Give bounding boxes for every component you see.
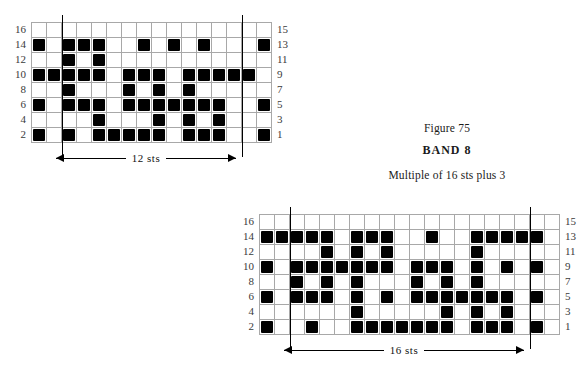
stitch-cell-empty	[515, 215, 530, 230]
repeat-count-label: 16 sts	[384, 344, 424, 356]
stitch-cell-filled	[122, 68, 137, 83]
stitch-cell-empty	[320, 305, 335, 320]
stitch-cell-filled	[350, 290, 365, 305]
stitch-cell-empty	[305, 215, 320, 230]
row-label-right: 1	[560, 319, 577, 334]
stitch-cell-empty	[107, 23, 122, 38]
stitch-cell-empty	[515, 305, 530, 320]
stitch-cell-empty	[455, 320, 470, 335]
row-label-right: 13	[272, 37, 299, 52]
chart-grid-row	[260, 215, 560, 230]
stitch-cell-empty	[47, 38, 62, 53]
stitch-cell-empty	[107, 68, 122, 83]
stitch-cell-empty	[455, 215, 470, 230]
stitch-cell-filled	[440, 305, 455, 320]
repeat-arrow-line-right	[166, 158, 236, 159]
stitch-cell-filled	[257, 128, 272, 143]
stitch-cell-empty	[395, 275, 410, 290]
stitch-cell-filled	[365, 320, 380, 335]
stitch-cell-empty	[122, 53, 137, 68]
stitch-cell-empty	[242, 113, 257, 128]
chart-upper: 16 14 12 10 8 6 4 2 15 13 11 9 7 5 3 1 1…	[4, 22, 299, 143]
stitch-multiple-note: Multiple of 16 sts plus 3	[332, 169, 562, 181]
repeat-end-line	[242, 15, 243, 157]
repeat-count-label: 12 sts	[126, 152, 166, 164]
row-label-left: 12	[4, 52, 31, 67]
stitch-cell-filled	[440, 290, 455, 305]
row-label-right: 3	[272, 112, 299, 127]
repeat-arrow-line-left	[284, 350, 384, 351]
stitch-cell-empty	[137, 23, 152, 38]
stitch-cell-empty	[530, 245, 545, 260]
stitch-cell-empty	[242, 128, 257, 143]
stitch-cell-filled	[47, 68, 62, 83]
stitch-cell-filled	[62, 98, 77, 113]
stitch-cell-empty	[395, 290, 410, 305]
row-label-right: 5	[272, 97, 299, 112]
stitch-cell-empty	[410, 245, 425, 260]
stitch-cell-filled	[305, 320, 320, 335]
repeat-arrow-line-left	[56, 158, 126, 159]
stitch-cell-filled	[425, 260, 440, 275]
chart-grid-row	[260, 275, 560, 290]
stitch-cell-filled	[530, 230, 545, 245]
stitch-cell-empty	[350, 215, 365, 230]
stitch-cell-filled	[122, 98, 137, 113]
chart-lower-body: 16 14 12 10 8 6 4 2 15 13 11 9 7 5 3 1	[232, 214, 577, 335]
row-label-right: 13	[560, 229, 577, 244]
stitch-cell-filled	[425, 290, 440, 305]
stitch-cell-filled	[197, 98, 212, 113]
repeat-arrow-line-right	[424, 350, 524, 351]
stitch-cell-empty	[212, 23, 227, 38]
stitch-cell-filled	[182, 113, 197, 128]
stitch-cell-filled	[410, 275, 425, 290]
repeat-start-line	[290, 207, 291, 349]
stitch-cell-empty	[197, 113, 212, 128]
repeat-start-line	[62, 15, 63, 157]
stitch-cell-filled	[380, 290, 395, 305]
stitch-cell-empty	[320, 215, 335, 230]
stitch-cell-empty	[275, 290, 290, 305]
stitch-cell-empty	[257, 68, 272, 83]
stitch-cell-empty	[242, 98, 257, 113]
stitch-cell-empty	[167, 68, 182, 83]
stitch-cell-empty	[167, 128, 182, 143]
stitch-cell-filled	[500, 260, 515, 275]
row-label-left: 10	[4, 67, 31, 82]
row-label-left: 2	[232, 319, 259, 334]
stitch-cell-empty	[275, 215, 290, 230]
chart-grid-row	[32, 98, 272, 113]
stitch-cell-empty	[77, 53, 92, 68]
stitch-cell-filled	[197, 38, 212, 53]
stitch-cell-filled	[212, 98, 227, 113]
stitch-cell-empty	[197, 83, 212, 98]
stitch-cell-empty	[485, 215, 500, 230]
stitch-cell-empty	[227, 23, 242, 38]
stitch-cell-empty	[515, 260, 530, 275]
stitch-cell-empty	[260, 215, 275, 230]
stitch-cell-filled	[92, 113, 107, 128]
stitch-cell-empty	[227, 38, 242, 53]
row-label-left: 14	[4, 37, 31, 52]
stitch-cell-empty	[167, 83, 182, 98]
stitch-cell-empty	[137, 113, 152, 128]
chart-upper-right-row-labels: 15 13 11 9 7 5 3 1	[272, 22, 299, 143]
stitch-cell-filled	[350, 245, 365, 260]
stitch-cell-filled	[212, 128, 227, 143]
stitch-cell-filled	[290, 230, 305, 245]
stitch-cell-empty	[455, 230, 470, 245]
chart-upper-body: 16 14 12 10 8 6 4 2 15 13 11 9 7 5 3 1	[4, 22, 299, 143]
stitch-cell-empty	[500, 215, 515, 230]
stitch-cell-filled	[365, 230, 380, 245]
stitch-cell-filled	[380, 230, 395, 245]
stitch-cell-filled	[182, 68, 197, 83]
stitch-cell-empty	[335, 230, 350, 245]
stitch-cell-empty	[485, 305, 500, 320]
chart-lower-repeat-measure: 16 sts	[284, 344, 524, 356]
stitch-cell-filled	[137, 128, 152, 143]
row-label-left: 8	[4, 82, 31, 97]
stitch-cell-empty	[32, 83, 47, 98]
stitch-cell-filled	[32, 38, 47, 53]
stitch-cell-empty	[167, 113, 182, 128]
stitch-cell-empty	[92, 23, 107, 38]
